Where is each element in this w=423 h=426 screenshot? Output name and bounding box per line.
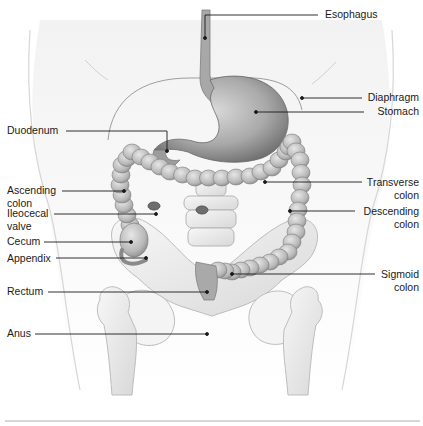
- label-ileocecal-valve: Ileocecal valve: [7, 207, 48, 232]
- label-descending-colon: Descending colon: [364, 205, 419, 230]
- label-rectum: Rectum: [7, 285, 43, 298]
- digestive-system-illustration: [0, 0, 423, 426]
- cecum: [120, 223, 148, 257]
- label-duodenum: Duodenum: [7, 124, 58, 137]
- label-cecum: Cecum: [7, 235, 40, 248]
- label-anus: Anus: [7, 327, 31, 340]
- label-stomach: Stomach: [378, 105, 419, 118]
- label-transverse-colon: Transverse colon: [367, 176, 419, 201]
- ileum-stump: [148, 202, 160, 210]
- label-sigmoid-colon: Sigmoid colon: [381, 268, 419, 293]
- label-ascending-colon: Ascending colon: [7, 184, 56, 209]
- aorta-stump: [196, 206, 208, 214]
- label-appendix: Appendix: [7, 252, 51, 265]
- label-diaphragm: Diaphragm: [368, 91, 419, 104]
- label-esophagus: Esophagus: [325, 8, 378, 21]
